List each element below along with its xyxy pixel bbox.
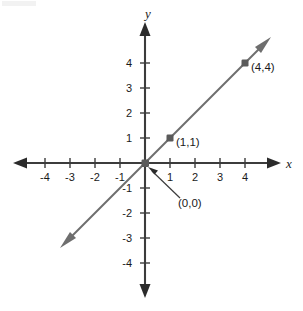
- x-tick-label: -3: [65, 171, 75, 183]
- data-point-marker-4-4: [242, 60, 249, 67]
- origin-leader-arrow: [148, 167, 180, 198]
- origin-leader-arrowhead: [148, 167, 158, 175]
- y-tick-label: -3: [122, 232, 132, 244]
- coordinate-plane-figure: -4 -3 -2 -1 1 2 3 4 4 3 2 1 -1 -2 -3 -4 …: [0, 0, 303, 311]
- y-tick-label: -2: [122, 207, 132, 219]
- x-tick-label: 4: [242, 171, 248, 183]
- y-tick-label: 2: [126, 107, 132, 119]
- data-point-marker-0-0: [142, 160, 150, 168]
- data-point-label-4-4: (4,4): [251, 61, 275, 73]
- y-tick-label: 4: [126, 57, 132, 69]
- x-axis-arrow-left: [13, 158, 27, 169]
- data-point-label-1-1: (1,1): [176, 136, 200, 148]
- line-y-equals-x: [60, 37, 271, 248]
- x-tick-label: 3: [217, 171, 223, 183]
- x-tick-label: -2: [90, 171, 100, 183]
- y-tick-label: -4: [122, 257, 132, 269]
- y-axis-arrow-up: [140, 22, 151, 36]
- y-tick-label: 1: [126, 132, 132, 144]
- y-tick-label: 3: [126, 82, 132, 94]
- x-tick-label: 1: [167, 171, 173, 183]
- x-tick-label: -4: [40, 171, 50, 183]
- x-axis-label: x: [285, 156, 292, 171]
- x-axis-arrow-right: [267, 158, 281, 169]
- y-axis-arrow-down: [140, 284, 151, 298]
- coordinate-plane-svg: -4 -3 -2 -1 1 2 3 4 4 3 2 1 -1 -2 -3 -4 …: [0, 0, 303, 311]
- data-point-marker-1-1: [167, 135, 174, 142]
- y-axis-label: y: [143, 6, 151, 21]
- x-tick-label: 2: [192, 171, 198, 183]
- data-point-label-0-0: (0,0): [178, 197, 202, 209]
